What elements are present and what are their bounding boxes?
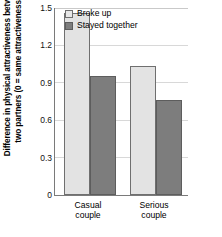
y-tick-label-1p5: 1.5 bbox=[30, 4, 52, 13]
x-category-label-casual: Casual couple bbox=[60, 200, 116, 220]
legend-item-broke-up: Broke up bbox=[65, 8, 138, 19]
bar-serious-stayed-together bbox=[156, 100, 182, 195]
bar-casual-broke-up bbox=[64, 13, 90, 195]
legend-swatch-icon-stayed-together bbox=[65, 22, 73, 30]
bar-casual-stayed-together bbox=[90, 76, 116, 195]
x-category-casual-line2: couple bbox=[60, 210, 116, 220]
y-axis-tick-labels: 1.5 1.2 0.9 0.6 0.3 0 bbox=[28, 0, 52, 237]
legend-item-stayed-together: Stayed together bbox=[65, 20, 138, 31]
x-category-serious-line1: Serious bbox=[126, 200, 182, 210]
legend-label-broke-up: Broke up bbox=[77, 9, 111, 18]
y-tick-label-0p6: 0.6 bbox=[30, 116, 52, 125]
y-tick-label-0p3: 0.3 bbox=[30, 154, 52, 163]
bar-serious-broke-up bbox=[130, 66, 156, 195]
y-axis-title-line2: two partners (0 = same attractiveness) bbox=[14, 0, 25, 168]
source-credit: From White, G.L. “Physical attractivenes… bbox=[209, 0, 222, 199]
chart-legend: Broke up Stayed together bbox=[62, 6, 141, 34]
legend-swatch-icon-broke-up bbox=[65, 10, 73, 18]
y-tick-label-1p2: 1.2 bbox=[30, 41, 52, 50]
x-category-serious-line2: couple bbox=[126, 210, 182, 220]
y-tick-label-0p9: 0.9 bbox=[30, 79, 52, 88]
chart-figure: Difference in physical attractiveness be… bbox=[0, 0, 222, 237]
plot-area bbox=[54, 8, 188, 196]
legend-label-stayed-together: Stayed together bbox=[77, 21, 138, 30]
x-category-casual-line1: Casual bbox=[60, 200, 116, 210]
x-category-label-serious: Serious couple bbox=[126, 200, 182, 220]
y-tick-label-0: 0 bbox=[30, 191, 52, 200]
y-axis-title-line1: Difference in physical attractiveness be… bbox=[3, 0, 14, 168]
